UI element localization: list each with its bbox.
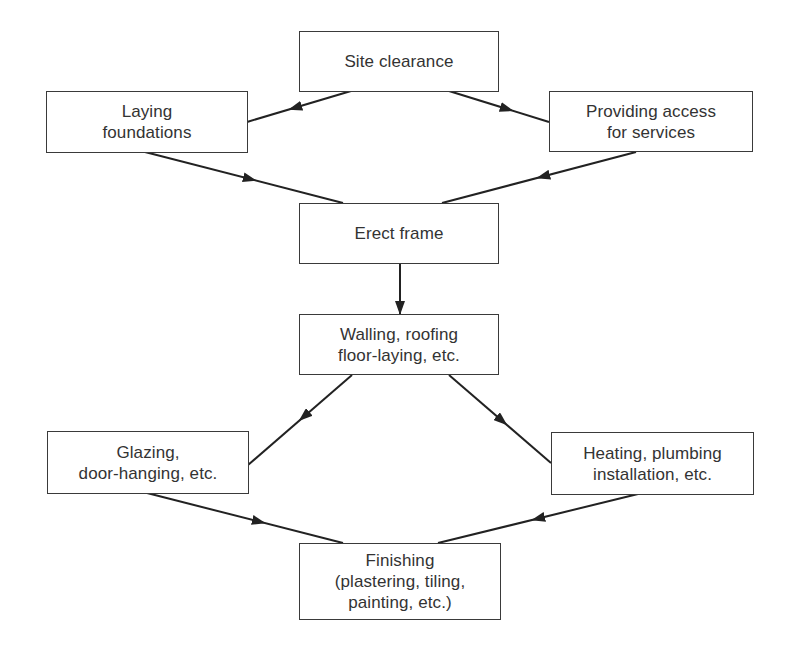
node-label-line-1: Heating, plumbing (583, 443, 722, 464)
edge-laying-foundations-to-erect-frame (145, 152, 343, 203)
node-heating-plumbing: Heating, plumbing installation, etc. (551, 432, 754, 495)
node-laying-foundations: Laying foundations (46, 91, 248, 153)
edge-walling-to-heating (449, 375, 551, 463)
node-label-line-3: painting, etc.) (348, 592, 452, 613)
node-label-line-2: floor-laying, etc. (338, 345, 460, 366)
node-label: Site clearance (344, 51, 453, 72)
node-label-line-2: installation, etc. (593, 464, 712, 485)
edge-site-clearance-to-laying-foundations (247, 91, 351, 122)
node-walling-roofing: Walling, roofing floor-laying, etc. (299, 314, 499, 375)
node-label-line-1: Laying (122, 101, 173, 122)
node-label-line-1: Glazing, (116, 442, 179, 463)
node-label-line-2: door-hanging, etc. (79, 463, 218, 484)
node-label-line-1: Providing access (586, 101, 716, 122)
edge-providing-access-to-erect-frame (442, 152, 636, 203)
node-label-line-1: Walling, roofing (340, 324, 458, 345)
node-label-line-2: (plastering, tiling, (335, 571, 466, 592)
edge-glazing-to-finishing (147, 493, 343, 543)
edge-walling-to-glazing (248, 375, 352, 465)
edge-site-clearance-to-providing-access (449, 91, 549, 122)
node-providing-access: Providing access for services (549, 91, 753, 152)
edge-heating-to-finishing (438, 494, 638, 543)
node-label-line-2: foundations (102, 122, 191, 143)
node-glazing: Glazing, door-hanging, etc. (47, 431, 249, 494)
node-label: Erect frame (355, 223, 444, 244)
node-label-line-1: Finishing (366, 550, 435, 571)
node-site-clearance: Site clearance (299, 31, 499, 92)
node-label-line-2: for services (607, 122, 695, 143)
construction-sequence-diagram: Site clearance Laying foundations Provid… (0, 0, 793, 653)
node-finishing: Finishing (plastering, tiling, painting,… (299, 543, 501, 620)
node-erect-frame: Erect frame (299, 203, 499, 264)
